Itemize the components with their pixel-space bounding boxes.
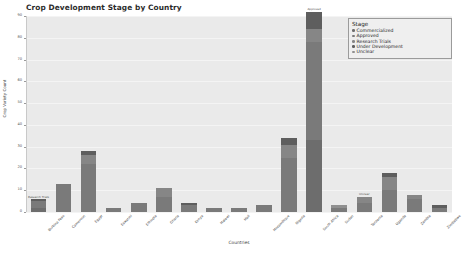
bar-segment[interactable] (306, 12, 322, 29)
legend-swatch-icon (352, 40, 355, 43)
bar-segment[interactable] (407, 199, 423, 212)
bar-stack[interactable]: Research Trials (31, 16, 47, 212)
y-tick-mark (24, 103, 26, 104)
bar-stack[interactable] (81, 16, 97, 212)
x-axis-title: Countries (26, 240, 452, 245)
y-tick-mark (24, 60, 26, 61)
y-tick-label: 80 (6, 36, 22, 40)
bar-segment[interactable] (231, 208, 247, 212)
bar-stack[interactable] (331, 16, 347, 212)
y-tick-label: 30 (6, 145, 22, 149)
x-axis-label: Egypt (94, 214, 104, 224)
y-tick-label: 60 (6, 79, 22, 83)
y-tick-mark (24, 38, 26, 39)
bar-stack[interactable] (231, 16, 247, 212)
y-tick-mark (24, 81, 26, 82)
bar-segment[interactable] (382, 190, 398, 212)
bar-segment[interactable] (382, 173, 398, 177)
bar-segment[interactable] (156, 197, 172, 212)
bar-segment[interactable] (281, 145, 297, 158)
x-axis-label: Sudan (344, 214, 354, 224)
y-tick-label: 40 (6, 123, 22, 127)
y-tick-label: 20 (6, 166, 22, 170)
bar-segment[interactable] (181, 205, 197, 212)
bar-stack[interactable] (56, 16, 72, 212)
bar-segment[interactable] (106, 208, 122, 212)
bar-segment[interactable] (432, 205, 448, 207)
y-tick-label: 90 (6, 14, 22, 18)
legend-swatch-icon (352, 29, 355, 32)
x-axis-label: Malawi (219, 214, 230, 225)
x-axis-label: Nigeria (295, 214, 306, 225)
bar-segment[interactable] (306, 42, 322, 140)
y-axis-line (26, 16, 27, 212)
bar-segment[interactable] (31, 199, 47, 201)
x-axis-label: Zimbabwe (447, 214, 462, 229)
bar-stack[interactable] (281, 16, 297, 212)
legend: Stage CommercializedApprovedResearch Tri… (348, 18, 452, 59)
bar-segment[interactable] (56, 184, 72, 212)
bar-stack[interactable] (181, 16, 197, 212)
x-axis-label: Mali (243, 214, 251, 222)
legend-entries: CommercializedApprovedResearch TrialsUnd… (352, 28, 448, 54)
y-tick-mark (24, 212, 26, 213)
bar-segment[interactable] (331, 208, 347, 212)
y-tick-mark (24, 147, 26, 148)
x-axis-label: Tanzania (371, 214, 384, 227)
x-axis-label: Eswatini (120, 214, 133, 227)
y-tick-mark (24, 190, 26, 191)
bar-annotation: Unclear (347, 193, 383, 196)
bar-segment[interactable] (357, 197, 373, 204)
x-axis-label: Kenya (194, 214, 204, 224)
bar-segment[interactable] (306, 140, 322, 212)
x-axis-label: Cameroon (71, 214, 86, 229)
bar-segment[interactable] (206, 208, 222, 212)
legend-entry[interactable]: Unclear (352, 49, 448, 54)
x-axis-label: South Africa (322, 214, 339, 231)
bar-stack[interactable] (206, 16, 222, 212)
bar-segment[interactable] (407, 195, 423, 199)
legend-title: Stage (352, 21, 448, 27)
bar-segment[interactable] (331, 205, 347, 207)
bar-segment[interactable] (156, 188, 172, 197)
bar-segment[interactable] (432, 208, 448, 212)
x-axis-label: Burkina Faso (47, 214, 65, 232)
bar-segment[interactable] (281, 158, 297, 212)
y-tick-mark (24, 125, 26, 126)
bar-segment[interactable] (357, 203, 373, 212)
bar-annotation: Approved (296, 8, 332, 11)
x-axis-label: Ghana (169, 214, 180, 225)
bar-segment[interactable] (81, 164, 97, 212)
y-tick-mark (24, 168, 26, 169)
bar-segment[interactable] (281, 138, 297, 145)
x-axis-label: Ethiopia (145, 214, 158, 227)
x-axis-label: Mozambique (272, 214, 290, 232)
y-tick-label: 50 (6, 101, 22, 105)
bar-stack[interactable] (131, 16, 147, 212)
y-tick-label: 10 (6, 188, 22, 192)
bar-segment[interactable] (181, 203, 197, 205)
y-tick-mark (24, 16, 26, 17)
gridline (26, 212, 452, 213)
bar-stack[interactable] (106, 16, 122, 212)
bar-stack[interactable] (156, 16, 172, 212)
bar-segment[interactable] (382, 177, 398, 190)
legend-swatch-icon (352, 35, 355, 38)
bar-segment[interactable] (81, 151, 97, 155)
bar-segment[interactable] (81, 155, 97, 164)
y-tick-label: 70 (6, 58, 22, 62)
legend-entry-label: Unclear (357, 49, 375, 54)
bar-segment[interactable] (256, 205, 272, 212)
bar-stack[interactable] (256, 16, 272, 212)
x-axis-label: Uganda (395, 214, 407, 226)
bar-segment[interactable] (31, 201, 47, 208)
bar-segment[interactable] (31, 208, 47, 212)
bar-stack[interactable]: Approved (306, 16, 322, 212)
legend-swatch-icon (352, 45, 355, 48)
bar-segment[interactable] (306, 29, 322, 42)
bar-segment[interactable] (131, 203, 147, 212)
chart-title: Crop Development Stage by Country (26, 3, 182, 12)
legend-swatch-icon (352, 51, 355, 54)
x-axis-label: Zambia (420, 214, 432, 226)
